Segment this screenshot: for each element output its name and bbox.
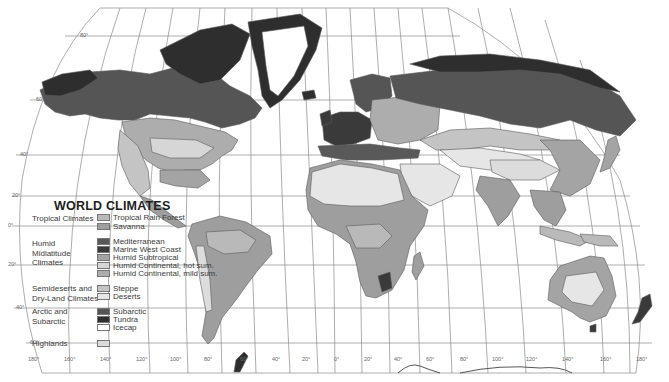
iceland [302,90,316,100]
southeast-asia [530,190,566,226]
north-america-subtropical [160,170,210,188]
antarctic-peninsula [234,352,248,372]
asia-steppe [420,128,560,150]
antarctica-edge-2 [460,367,572,373]
tasmania [590,324,596,332]
new-zealand [632,294,652,324]
mediterranean-belt [318,144,420,160]
madagascar [412,252,424,280]
japan [600,136,620,172]
tibet-highlands [490,160,560,180]
world-climate-map [0,0,669,382]
new-guinea [580,234,618,246]
antarctica-edge-1 [398,365,440,373]
central-america [140,196,186,228]
